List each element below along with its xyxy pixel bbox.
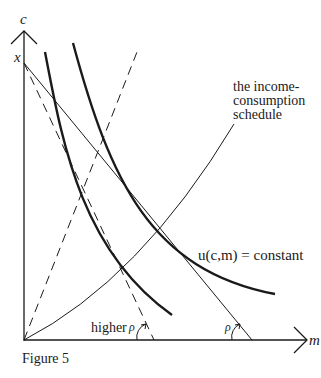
figure-caption: Figure 5: [22, 351, 69, 366]
rho-higher-label: ρ: [128, 320, 135, 334]
x-axis-label: m: [309, 332, 320, 348]
indifference-curve-1: [45, 52, 172, 315]
budget-line: [24, 63, 252, 340]
intercept-label: x: [13, 49, 21, 65]
dashed-ray: [24, 52, 137, 340]
figure-5-diagram: c m x the income- consumption schedule u…: [0, 0, 321, 378]
income-consumption-schedule: [24, 124, 234, 340]
icc-label-line2: consumption: [233, 93, 305, 108]
rho-arc-icon: [232, 324, 240, 340]
higher-label: higher: [91, 320, 127, 335]
icc-label-line1: the income-: [233, 79, 300, 94]
rho-higher-arc-icon: [137, 324, 146, 340]
y-axis-label: c: [20, 11, 27, 27]
rho-label: ρ: [224, 320, 231, 334]
icc-label-line3: schedule: [233, 107, 282, 122]
indifference-label: u(c,m) = constant: [198, 247, 304, 264]
